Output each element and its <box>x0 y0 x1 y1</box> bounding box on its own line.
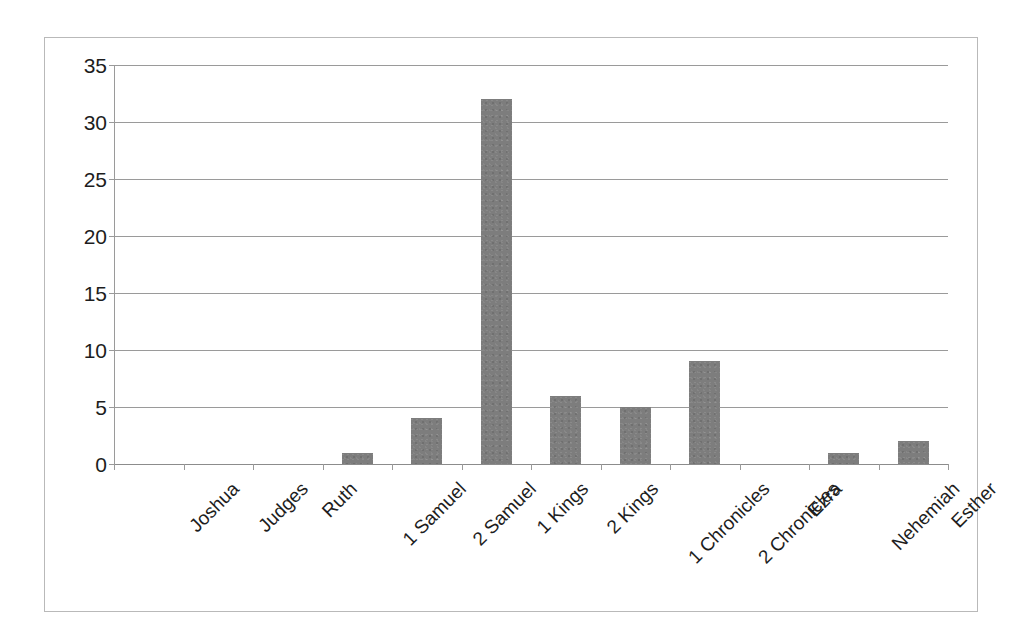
gridline <box>114 122 948 123</box>
x-axis-tick-label: 1 Samuel <box>399 478 471 550</box>
x-axis-tick-labels: JoshuaJudgesRuth1 Samuel2 Samuel1 Kings2… <box>114 464 974 614</box>
x-axis-tick-label: Judges <box>254 478 313 537</box>
gridline <box>114 350 948 351</box>
chart-frame: 05101520253035 JoshuaJudgesRuth1 Samuel2… <box>44 37 978 612</box>
y-axis-tick <box>109 293 114 294</box>
y-axis-tick <box>109 65 114 66</box>
bar <box>342 453 373 464</box>
y-axis-tick <box>109 407 114 408</box>
y-axis-tick-labels: 05101520253035 <box>45 65 107 464</box>
bar <box>828 453 859 464</box>
gridline <box>114 407 948 408</box>
y-axis-tick-label: 15 <box>84 283 107 304</box>
y-axis-line <box>114 65 115 464</box>
plot-area <box>114 65 948 464</box>
y-axis-tick <box>109 350 114 351</box>
bar <box>481 99 512 464</box>
y-axis-tick-label: 35 <box>84 55 107 76</box>
y-axis-tick-label: 30 <box>84 112 107 133</box>
y-axis-tick <box>109 236 114 237</box>
x-axis-tick-label: 2 Kings <box>603 478 663 538</box>
bar <box>689 361 720 464</box>
gridline <box>114 293 948 294</box>
y-axis-tick-label: 0 <box>95 454 107 475</box>
bar <box>411 418 442 464</box>
gridline <box>114 65 948 66</box>
gridline <box>114 236 948 237</box>
y-axis-tick <box>109 179 114 180</box>
y-axis-tick-label: 25 <box>84 169 107 190</box>
y-axis-tick <box>109 122 114 123</box>
bar <box>620 407 651 464</box>
y-axis-tick-label: 20 <box>84 226 107 247</box>
x-axis-tick-label: 2 Samuel <box>469 478 541 550</box>
x-axis-tick-label: 1 Kings <box>533 478 593 538</box>
bar <box>898 441 929 464</box>
x-axis-tick-label: Ruth <box>318 478 362 522</box>
bar <box>550 396 581 464</box>
x-axis-tick-label: Joshua <box>185 478 244 537</box>
y-axis-tick-label: 10 <box>84 340 107 361</box>
gridline <box>114 179 948 180</box>
y-axis-tick-label: 5 <box>95 397 107 418</box>
